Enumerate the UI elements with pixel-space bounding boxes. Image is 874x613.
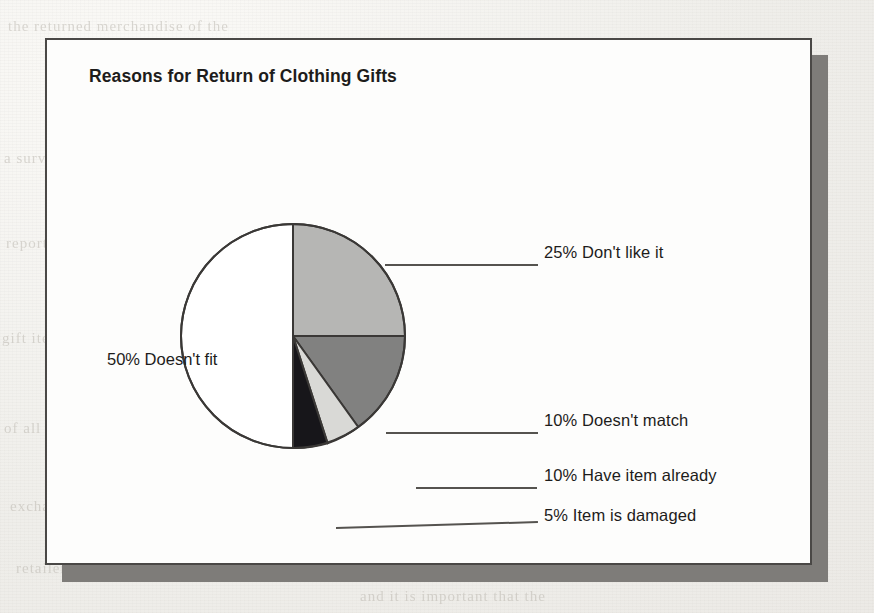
leader-line-doesnt-match [386, 432, 538, 434]
pie-slice-doesnt-fit[interactable] [181, 224, 293, 448]
pie-chart: 50% Doesn't fit 25% Don't like it 10% Do… [47, 40, 814, 567]
pie-callout-doesnt-match: 10% Doesn't match [544, 411, 688, 430]
leader-line-item-is-damaged [336, 521, 538, 528]
figure-frame: Reasons for Return of Clothing Gifts 50%… [45, 38, 812, 565]
pie-callout-have-item-already: 10% Have item already [544, 466, 717, 485]
ghost-text-line: and it is important that the [360, 588, 546, 605]
leader-line-have-item-already [416, 487, 537, 489]
pie-slices-svg [175, 218, 411, 454]
pie-callout-dont-like-it: 25% Don't like it [544, 243, 664, 262]
pie-label-doesnt-fit: 50% Doesn't fit [107, 350, 217, 369]
pie-callout-item-is-damaged: 5% Item is damaged [544, 506, 696, 525]
leader-line-dont-like-it [385, 264, 538, 266]
pie-slice-dont-like-it[interactable] [293, 224, 405, 336]
ghost-text-line: the returned merchandise of the [8, 18, 229, 35]
